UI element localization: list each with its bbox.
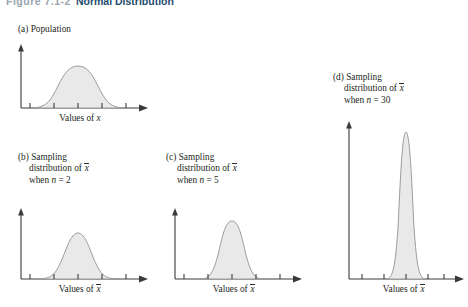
panel-b-chart — [16, 205, 156, 285]
panel-a-title: Population — [31, 24, 71, 34]
panel-c-x-axis-arrowhead — [293, 276, 302, 283]
panel-a-caption: (a) Population — [18, 24, 71, 35]
panel-a-normal-curve — [30, 66, 126, 108]
panel-d-x-axis-arrowhead — [455, 276, 464, 283]
panel-b-axis-xbar: x — [96, 284, 101, 294]
panel-a-variable: x — [97, 113, 101, 123]
panel-d-caption: (d) Sampling distribution of x when n = … — [333, 72, 404, 106]
panel-c-caption-line3: when n = 5 — [166, 175, 237, 186]
panel-b-caption: (b) Sampling distribution of x when n = … — [18, 152, 89, 186]
panel-c-xbar: x — [232, 163, 237, 174]
panel-d-n-value: = 30 — [371, 95, 390, 105]
panel-d-title: Sampling — [346, 72, 382, 82]
panel-d-chart — [344, 118, 468, 285]
panel-b-caption-line2: distribution of x — [18, 163, 89, 174]
panel-b-title: Sampling — [31, 152, 67, 162]
figure-number: Figure 7.1-2 — [6, 0, 71, 7]
panel-a-chart — [16, 42, 156, 114]
panel-c-n-value: = 5 — [204, 175, 219, 185]
panel-b-sampling-n2: (b) Sampling distribution of x when n = … — [18, 152, 89, 186]
panel-c-y-axis-arrowhead — [172, 208, 178, 216]
panel-a-population: (a) Population — [18, 24, 71, 35]
panel-b-y-axis-arrowhead — [18, 208, 24, 216]
panel-c-tag: (c) — [166, 152, 176, 162]
panel-b-x-axis-arrowhead — [139, 276, 148, 283]
panel-a-tag: (a) — [18, 24, 28, 34]
panel-b-tag: (b) — [18, 152, 29, 162]
figure-title: Figure 7.1-2Normal Distribution — [6, 0, 174, 7]
panel-b-xbar: x — [84, 163, 89, 174]
panel-d-caption-line3: when n = 30 — [333, 95, 404, 106]
panel-a-x-axis-label: Values of x — [16, 113, 144, 123]
panel-c-tick-marks — [184, 274, 280, 279]
panel-c-caption: (c) Sampling distribution of x when n = … — [166, 152, 237, 186]
panel-a-y-axis-arrowhead — [18, 44, 24, 52]
panel-d-tag: (d) — [333, 72, 344, 82]
panel-c-axis-xbar: x — [250, 284, 255, 294]
panel-c-chart — [170, 205, 310, 285]
panel-d-axis-xbar: x — [420, 284, 425, 294]
panel-c-sampling-n5: (c) Sampling distribution of x when n = … — [166, 152, 237, 186]
panel-d-xbar: x — [399, 83, 404, 94]
panel-b-caption-line3: when n = 2 — [18, 175, 89, 186]
figure-name: Normal Distribution — [76, 0, 174, 7]
panel-d-normal-curve — [386, 132, 426, 279]
panel-b-n-value: = 2 — [56, 175, 71, 185]
panel-a-x-axis-arrowhead — [139, 105, 148, 112]
panel-d-caption-line2: distribution of x — [333, 83, 404, 94]
panel-c-caption-line2: distribution of x — [166, 163, 237, 174]
panel-c-title: Sampling — [179, 152, 215, 162]
panel-c-x-axis-label: Values of x — [170, 284, 298, 294]
panel-b-x-axis-label: Values of x — [16, 284, 144, 294]
panel-d-x-axis-label: Values of x — [344, 284, 464, 294]
panel-d-sampling-n30: (d) Sampling distribution of x when n = … — [333, 72, 404, 106]
figure-root: Figure 7.1-2Normal Distribution (a) Popu… — [0, 0, 468, 307]
panel-b-normal-curve — [38, 233, 118, 279]
panel-d-y-axis-arrowhead — [346, 121, 352, 129]
panel-c-normal-curve — [200, 221, 264, 279]
